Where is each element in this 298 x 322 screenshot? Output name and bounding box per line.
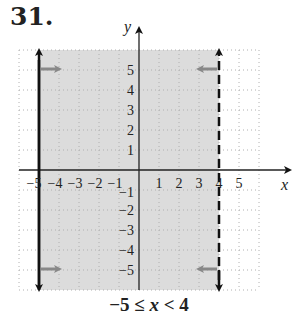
y-tick-label: −1 [119, 185, 134, 200]
inequality-caption: −5 ≤ x < 4 [0, 294, 298, 316]
y-tick-label: 3 [127, 103, 134, 118]
x-tick-label: −3 [68, 176, 83, 191]
x-tick-label: 3 [196, 176, 203, 191]
x-tick-label: −4 [48, 176, 63, 191]
x-tick-label: −5 [27, 176, 42, 191]
x-tick-label: −2 [88, 176, 103, 191]
x-tick-label: 5 [236, 176, 243, 191]
caption-lhs: −5 ≤ [109, 294, 149, 315]
x-tick-label: 2 [176, 176, 183, 191]
y-tick-label: −3 [119, 223, 134, 238]
inequality-graph: y x −5 −4 −3 −2 −1 1 2 3 4 5 5 4 3 2 1 −… [0, 0, 298, 322]
y-tick-label: −4 [119, 243, 134, 258]
y-tick-label: 1 [127, 143, 134, 158]
y-tick-label: 4 [127, 83, 134, 98]
y-tick-label: 5 [127, 63, 134, 78]
y-tick-label: −2 [119, 203, 134, 218]
x-tick-label: 4 [216, 176, 223, 191]
x-axis-label: x [280, 176, 288, 193]
caption-rhs: < 4 [159, 294, 189, 315]
caption-variable: x [149, 294, 159, 315]
x-tick-label: 1 [156, 176, 163, 191]
y-tick-label: −5 [119, 263, 134, 278]
y-axis-label: y [122, 18, 132, 36]
y-tick-label: 2 [127, 123, 134, 138]
